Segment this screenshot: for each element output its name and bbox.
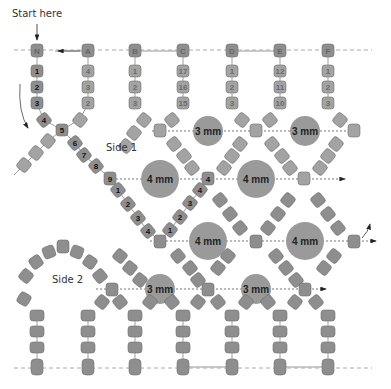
side2-label: Side 2 (52, 274, 83, 285)
svg-text:2: 2 (178, 213, 183, 222)
svg-text:A: A (85, 47, 91, 56)
svg-text:2: 2 (86, 99, 91, 108)
svg-text:3 mm: 3 mm (147, 284, 173, 295)
round-bead-4mm: 4 mm (237, 160, 275, 198)
bottom-column-beads (30, 310, 335, 375)
svg-text:1: 1 (230, 67, 235, 76)
svg-text:17: 17 (179, 67, 188, 76)
exit-arrow (362, 224, 370, 238)
svg-text:3: 3 (133, 99, 138, 108)
svg-text:4 mm: 4 mm (292, 236, 318, 247)
start-here-label: Start here (12, 8, 62, 19)
svg-text:3: 3 (326, 99, 331, 108)
svg-text:9: 9 (108, 175, 113, 184)
svg-text:N: N (34, 47, 40, 56)
svg-text:D: D (229, 47, 235, 56)
svg-text:16: 16 (179, 83, 188, 92)
svg-text:3: 3 (86, 83, 91, 92)
curved-direction-arrow (20, 84, 28, 128)
svg-text:4: 4 (198, 186, 203, 195)
svg-text:F: F (326, 47, 331, 56)
svg-text:4 mm: 4 mm (243, 174, 269, 185)
round-bead-3mm: 3 mm (193, 116, 223, 146)
round-bead-4mm: 4 mm (286, 222, 324, 260)
svg-text:3 mm: 3 mm (195, 126, 221, 137)
svg-text:2: 2 (230, 83, 235, 92)
svg-text:4 mm: 4 mm (147, 174, 173, 185)
svg-text:3: 3 (35, 99, 40, 108)
beading-diagram: 3 mm 3 mm 4 mm 4 mm 4 mm 4 mm 3 mm 3 mm (0, 0, 391, 389)
svg-text:3: 3 (230, 99, 235, 108)
svg-text:1: 1 (35, 67, 40, 76)
svg-text:C: C (180, 47, 186, 56)
svg-text:6: 6 (73, 139, 78, 148)
svg-text:5: 5 (60, 126, 65, 135)
svg-text:1: 1 (116, 186, 121, 195)
svg-text:3: 3 (136, 214, 141, 223)
svg-text:1: 1 (326, 67, 331, 76)
svg-text:3 mm: 3 mm (243, 284, 269, 295)
svg-text:15: 15 (179, 99, 188, 108)
svg-text:11: 11 (276, 83, 285, 92)
svg-text:2: 2 (126, 200, 131, 209)
svg-text:B: B (132, 47, 138, 56)
svg-text:2: 2 (326, 83, 331, 92)
svg-text:8: 8 (94, 162, 99, 171)
top-column-numbers: 1 2 3 4 3 2 1 2 3 17 16 15 1 2 3 12 11 1… (35, 67, 331, 108)
svg-text:12: 12 (276, 67, 285, 76)
svg-text:2: 2 (35, 83, 40, 92)
svg-text:4: 4 (86, 67, 91, 76)
svg-text:4: 4 (206, 175, 211, 184)
round-bead-3mm: 3 mm (290, 116, 320, 146)
svg-text:E: E (277, 47, 283, 56)
svg-text:4: 4 (42, 116, 47, 125)
svg-text:3: 3 (188, 199, 193, 208)
svg-text:1: 1 (168, 226, 173, 235)
svg-text:1: 1 (133, 67, 138, 76)
svg-text:7: 7 (82, 151, 87, 160)
svg-text:10: 10 (276, 99, 285, 108)
round-bead-4mm: 4 mm (141, 160, 179, 198)
svg-text:4: 4 (146, 227, 151, 236)
side1-label: Side 1 (106, 142, 137, 153)
svg-text:2: 2 (133, 83, 138, 92)
svg-text:4 mm: 4 mm (195, 236, 221, 247)
svg-text:3 mm: 3 mm (292, 126, 318, 137)
